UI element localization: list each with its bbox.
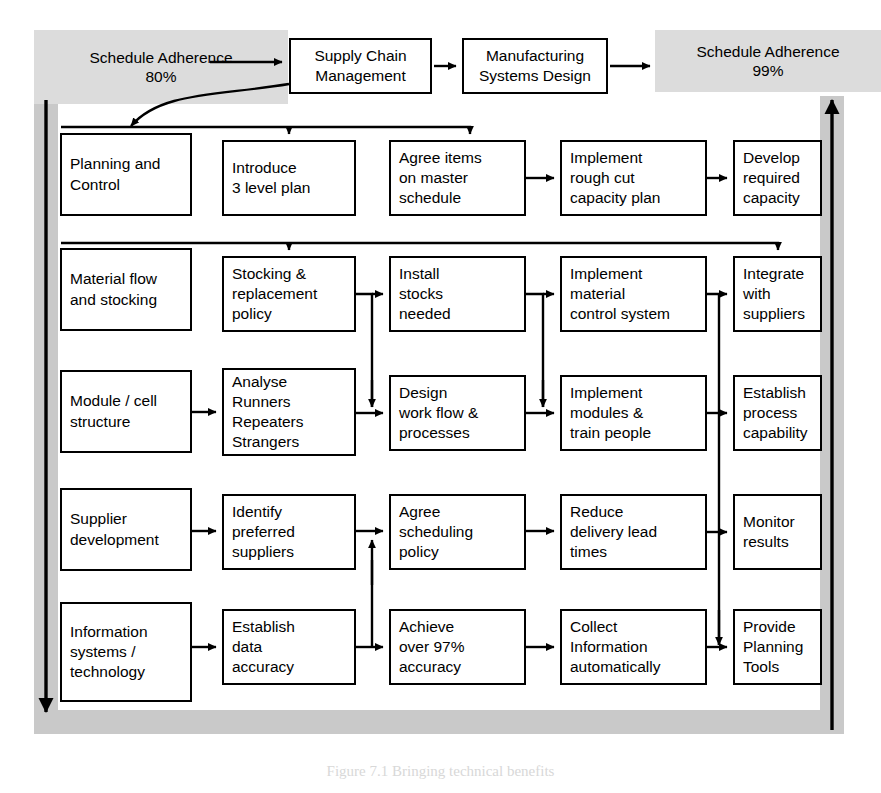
frame-left-band	[34, 96, 58, 734]
theme-information-systems-technology[interactable]: Information systems / technology	[60, 602, 192, 702]
r1s4-line-3: capacity	[743, 188, 812, 208]
r3s1-line-1: Analyse	[232, 372, 346, 392]
theme-2-line-2: and stocking	[70, 290, 182, 310]
r4s1-line-2: preferred	[232, 522, 346, 542]
step-establish-data-accuracy[interactable]: Establish data accuracy	[222, 609, 356, 685]
step-establish-process-capability[interactable]: Establish process capability	[733, 375, 822, 451]
frame-right-band	[820, 96, 844, 734]
r2s3-line-2: material	[570, 284, 697, 304]
end-chip-line1: Schedule Adherence	[696, 42, 839, 61]
r1s1-line-2: 3 level plan	[232, 178, 346, 198]
step-implement-material-control-system[interactable]: Implement material control system	[560, 256, 707, 332]
r3s3-line-1: Implement	[570, 383, 697, 403]
step-integrate-with-suppliers[interactable]: Integrate with suppliers	[733, 256, 822, 332]
step-identify-preferred-suppliers[interactable]: Identify preferred suppliers	[222, 494, 356, 570]
r4s1-line-3: suppliers	[232, 542, 346, 562]
r2s4-line-2: with	[743, 284, 812, 304]
step-collect-information-automatically[interactable]: Collect Information automatically	[560, 609, 707, 685]
r5s4-line-3: Tools	[743, 657, 812, 677]
end-chip-line2: 99%	[752, 61, 783, 80]
r5s1-line-1: Establish	[232, 617, 346, 637]
wire-r2-install-junction	[526, 294, 543, 407]
stage-supply-chain-management[interactable]: Supply Chain Management	[289, 38, 432, 94]
r4s3-line-3: times	[570, 542, 697, 562]
r2s2-line-2: stocks	[399, 284, 516, 304]
r3s2-line-2: work flow &	[399, 403, 516, 423]
r4s2-line-3: policy	[399, 542, 516, 562]
stage1-line1: Supply Chain	[299, 46, 422, 66]
r4s4-line-2: results	[743, 532, 812, 552]
theme-2-line-1: Material flow	[70, 269, 182, 289]
r1s3-line-1: Implement	[570, 148, 697, 168]
step-agree-items-on-master-schedule[interactable]: Agree items on master schedule	[389, 140, 526, 216]
r1s1-line-1: Introduce	[232, 158, 346, 178]
theme-4-line-2: development	[70, 530, 182, 550]
theme-3-line-1: Module / cell	[70, 391, 182, 411]
frame-bottom-band	[34, 710, 844, 734]
r2s1-line-1: Stocking &	[232, 264, 346, 284]
r3s4-line-1: Establish	[743, 383, 812, 403]
r3s1-line-2: Runners	[232, 392, 346, 412]
r1s4-line-2: required	[743, 168, 812, 188]
step-develop-required-capacity[interactable]: Develop required capacity	[733, 140, 822, 216]
r2s3-line-3: control system	[570, 304, 697, 324]
r5s2-line-1: Achieve	[399, 617, 516, 637]
r4s3-line-1: Reduce	[570, 502, 697, 522]
r2s2-line-1: Install	[399, 264, 516, 284]
r1s2-line-2: on master	[399, 168, 516, 188]
r1s4-line-1: Develop	[743, 148, 812, 168]
theme-1-line-1: Planning and	[70, 154, 182, 174]
stage2-line2: Systems Design	[472, 66, 598, 86]
theme-5-line-1: Information	[70, 622, 182, 642]
step-install-stocks-needed[interactable]: Install stocks needed	[389, 256, 526, 332]
r5s4-line-1: Provide	[743, 617, 812, 637]
r3s3-line-3: train people	[570, 423, 697, 443]
r1s3-line-3: capacity plan	[570, 188, 697, 208]
start-chip-line1: Schedule Adherence	[89, 48, 232, 67]
r2s2-line-3: needed	[399, 304, 516, 324]
step-monitor-results[interactable]: Monitor results	[733, 494, 822, 570]
wire-r2-material-junction	[707, 294, 719, 645]
theme-module-cell-structure[interactable]: Module / cell structure	[60, 370, 192, 453]
step-design-work-flow-and-processes[interactable]: Design work flow & processes	[389, 375, 526, 451]
r4s3-line-2: delivery lead	[570, 522, 697, 542]
step-reduce-delivery-lead-times[interactable]: Reduce delivery lead times	[560, 494, 707, 570]
r2s1-line-3: policy	[232, 304, 346, 324]
r1s2-line-3: schedule	[399, 188, 516, 208]
r4s4-line-1: Monitor	[743, 512, 812, 532]
r1s2-line-1: Agree items	[399, 148, 516, 168]
r2s1-line-2: replacement	[232, 284, 346, 304]
step-implement-modules-and-train-people[interactable]: Implement modules & train people	[560, 375, 707, 451]
r5s1-line-3: accuracy	[232, 657, 346, 677]
theme-5-line-3: technology	[70, 662, 182, 682]
r3s2-line-1: Design	[399, 383, 516, 403]
step-implement-rough-cut-capacity-plan[interactable]: Implement rough cut capacity plan	[560, 140, 707, 216]
step-agree-scheduling-policy[interactable]: Agree scheduling policy	[389, 494, 526, 570]
figure-caption: Figure 7.1 Bringing technical benefits	[0, 763, 881, 780]
stage-manufacturing-systems-design[interactable]: Manufacturing Systems Design	[462, 38, 608, 94]
step-achieve-over-97-accuracy[interactable]: Achieve over 97% accuracy	[389, 609, 526, 685]
theme-planning-and-control[interactable]: Planning and Control	[60, 133, 192, 216]
r5s3-line-3: automatically	[570, 657, 697, 677]
wire-r2-stocking-junction	[356, 294, 372, 407]
stage1-line2: Management	[299, 66, 422, 86]
r3s4-line-2: process	[743, 403, 812, 423]
theme-supplier-development[interactable]: Supplier development	[60, 488, 192, 571]
theme-3-line-2: structure	[70, 412, 182, 432]
theme-material-flow-and-stocking[interactable]: Material flow and stocking	[60, 248, 192, 331]
r3s2-line-3: processes	[399, 423, 516, 443]
r5s1-line-2: data	[232, 637, 346, 657]
step-provide-planning-tools[interactable]: Provide Planning Tools	[733, 609, 822, 685]
step-stocking-replacement-policy[interactable]: Stocking & replacement policy	[222, 256, 356, 332]
r1s3-line-2: rough cut	[570, 168, 697, 188]
theme-5-line-2: systems /	[70, 642, 182, 662]
r4s2-line-2: scheduling	[399, 522, 516, 542]
start-chip-line2: 80%	[145, 67, 176, 86]
step-introduce-3-level-plan[interactable]: Introduce 3 level plan	[222, 140, 356, 216]
step-analyse-runners-repeaters-strangers[interactable]: Analyse Runners Repeaters Strangers	[222, 368, 356, 456]
r2s3-line-1: Implement	[570, 264, 697, 284]
r5s4-line-2: Planning	[743, 637, 812, 657]
schedule-adherence-start-chip: Schedule Adherence 80%	[34, 30, 288, 104]
r4s2-line-1: Agree	[399, 502, 516, 522]
theme-1-line-2: Control	[70, 175, 182, 195]
